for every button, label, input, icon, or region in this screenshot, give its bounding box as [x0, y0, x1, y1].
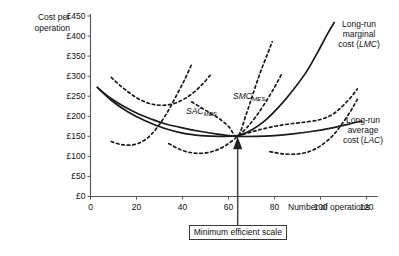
- y-tick-label: £400: [52, 31, 86, 41]
- lmc-label-abbrev: LMC: [359, 39, 377, 49]
- lmc-curve-label: Long-run marginal cost (LMC): [325, 20, 393, 49]
- y-tick-label: £150: [52, 131, 86, 141]
- x-tick-label: 20: [125, 202, 149, 212]
- lmc-label-line3a: cost (: [338, 39, 359, 49]
- x-tick-label: 80: [263, 202, 287, 212]
- y-tick-label: £200: [52, 111, 86, 121]
- lac-label-line3a: cost (: [343, 135, 364, 145]
- curve-sac-1: [111, 75, 210, 105]
- sac-mes-subscript: MES: [203, 110, 216, 117]
- curve-long-run-marginal-cost-lmc: [97, 22, 334, 136]
- y-tick-label: £350: [52, 51, 86, 61]
- x-tick-label: 100: [309, 202, 333, 212]
- lac-label-line1: Long-run: [346, 115, 380, 125]
- minimum-efficient-scale-box: Minimum efficient scale: [189, 225, 287, 240]
- x-tick-label: 40: [171, 202, 195, 212]
- x-tick-label: 0: [79, 202, 103, 212]
- mes-arrow: [233, 137, 242, 225]
- sac-mes-main: SAC: [186, 106, 203, 116]
- curve-group: [97, 22, 362, 154]
- y-tick-label: £450: [52, 11, 86, 21]
- smc-mes-main: SMC: [233, 91, 252, 101]
- lac-label-abbrev: LAC: [364, 135, 381, 145]
- curve-smc-mes: [192, 42, 273, 137]
- smc-mes-curve-label: SMCMES: [233, 92, 265, 102]
- sac-mes-curve-label: SACMES: [186, 107, 217, 117]
- cost-curves-chart: Cost per operation Number of operations …: [0, 0, 399, 256]
- x-tick-label: 120: [355, 202, 379, 212]
- curve-long-run-average-cost-lac: [97, 87, 362, 136]
- y-tick-label: £250: [52, 91, 86, 101]
- y-tick-label: £0: [52, 191, 86, 201]
- y-tick-label: £100: [52, 151, 86, 161]
- lac-label-line2: average: [348, 125, 379, 135]
- smc-mes-subscript: MES: [252, 95, 265, 102]
- y-tick-label: £50: [52, 171, 86, 181]
- lmc-label-line2: marginal: [343, 29, 376, 39]
- x-tick-label: 60: [217, 202, 241, 212]
- lmc-label-line1: Long-run: [342, 19, 376, 29]
- lac-curve-label: Long-run average cost (LAC): [330, 116, 396, 145]
- lmc-label-line3c: ): [377, 39, 380, 49]
- lac-label-line3c: ): [380, 135, 383, 145]
- y-tick-label: £300: [52, 71, 86, 81]
